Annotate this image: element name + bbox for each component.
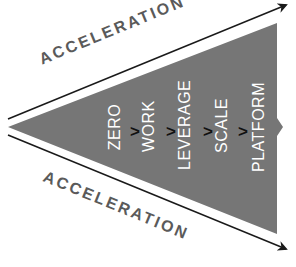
stage-scale: SCALE — [214, 101, 230, 153]
stage-leverage: LEVERAGE — [177, 84, 193, 170]
separator-2: > — [166, 123, 176, 140]
separator-1: > — [130, 123, 140, 140]
stage-zero: ZERO — [107, 102, 123, 152]
stage-work: WORK — [141, 102, 157, 152]
separator-3: > — [203, 123, 213, 140]
stage-platform: PLATFORM — [251, 82, 267, 172]
separator-4: > — [238, 123, 248, 140]
